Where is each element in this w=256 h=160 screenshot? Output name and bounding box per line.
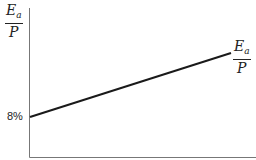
y-tick-label: 8% (7, 110, 23, 122)
y-axis-label: Ea P (5, 3, 23, 39)
chart-plot (0, 0, 256, 160)
series-line-ea-p (30, 53, 231, 117)
series-label: Ea P (233, 39, 251, 75)
